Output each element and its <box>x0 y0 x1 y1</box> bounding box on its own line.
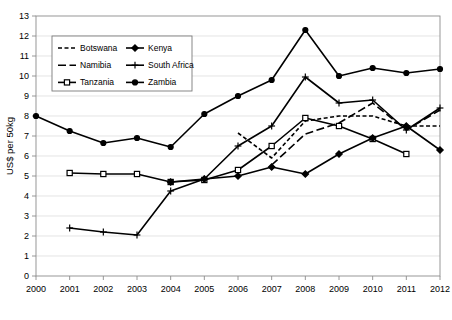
legend-label: Zambia <box>148 77 177 87</box>
data-point <box>64 80 69 85</box>
chart-container: 0123456789101112132000200120022003200420… <box>0 0 452 320</box>
y-tick-label: 2 <box>24 231 29 241</box>
data-point <box>269 78 274 83</box>
x-tick-label: 2011 <box>397 284 416 294</box>
x-tick-label: 2012 <box>430 284 450 294</box>
legend-label: Tanzania <box>80 77 114 87</box>
data-point <box>67 170 72 175</box>
data-point <box>168 145 173 150</box>
x-tick-label: 2000 <box>26 284 46 294</box>
legend-label: Kenya <box>148 43 172 53</box>
legend-label: Botswana <box>80 43 118 53</box>
y-tick-label: 1 <box>24 251 29 261</box>
x-axis: 2000200120022003200420052006200720082009… <box>26 276 450 294</box>
data-point <box>236 94 241 99</box>
data-point <box>235 173 241 179</box>
legend-label: South Africa <box>148 60 194 70</box>
data-point <box>268 164 274 170</box>
data-point <box>303 115 308 120</box>
y-tick-label: 9 <box>24 91 29 101</box>
x-tick-label: 2003 <box>127 284 147 294</box>
data-point <box>34 114 39 119</box>
x-tick-label: 2008 <box>295 284 315 294</box>
x-tick-label: 2001 <box>60 284 80 294</box>
line-chart: 0123456789101112132000200120022003200420… <box>0 0 452 320</box>
data-point <box>235 167 240 172</box>
data-point <box>269 143 274 148</box>
y-tick-label: 10 <box>19 71 29 81</box>
y-tick-label: 13 <box>19 11 29 21</box>
x-tick-label: 2009 <box>329 284 349 294</box>
y-tick-label: 11 <box>20 51 29 61</box>
y-tick-label: 8 <box>24 111 29 121</box>
data-point <box>67 129 72 134</box>
data-point <box>135 136 140 141</box>
data-point <box>133 80 138 85</box>
y-tick-label: 3 <box>24 211 29 221</box>
data-point <box>134 171 139 176</box>
y-tick-label: 4 <box>24 191 29 201</box>
data-point <box>100 229 107 236</box>
data-point <box>202 112 207 117</box>
data-point <box>438 67 443 72</box>
x-tick-label: 2002 <box>93 284 113 294</box>
x-tick-label: 2005 <box>194 284 214 294</box>
data-point <box>404 151 409 156</box>
data-point <box>404 71 409 76</box>
y-axis-title: US$ per 50kg <box>4 117 15 175</box>
y-tick-label: 7 <box>24 131 29 141</box>
legend: BotswanaKenyaNamibiaSouth AfricaTanzania… <box>52 36 194 91</box>
data-point <box>101 141 106 146</box>
x-tick-label: 2010 <box>363 284 383 294</box>
data-point <box>101 171 106 176</box>
y-tick-label: 6 <box>24 151 29 161</box>
x-tick-label: 2004 <box>161 284 181 294</box>
data-point <box>336 123 341 128</box>
data-point <box>337 74 342 79</box>
y-tick-label: 0 <box>24 271 29 281</box>
y-tick-label: 5 <box>24 171 29 181</box>
data-point <box>303 28 308 33</box>
y-tick-label: 12 <box>19 31 29 41</box>
legend-label: Namibia <box>80 60 111 70</box>
x-tick-label: 2007 <box>262 284 282 294</box>
data-point <box>66 225 73 232</box>
x-tick-label: 2006 <box>228 284 248 294</box>
data-point <box>370 66 375 71</box>
